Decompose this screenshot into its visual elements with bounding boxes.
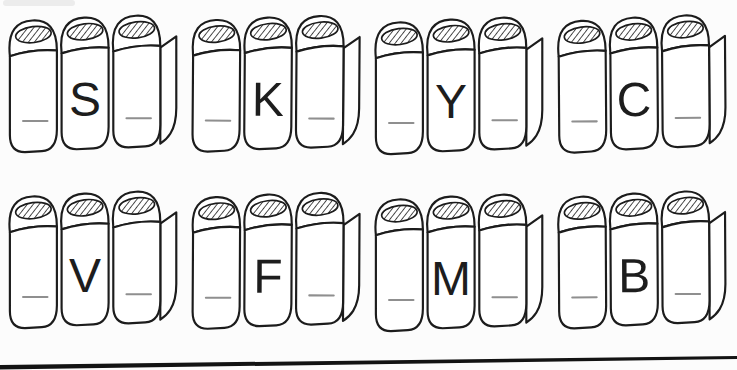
book-group-c: C	[557, 12, 730, 176]
book-group-v: V	[8, 188, 181, 352]
book-group-s: S	[8, 12, 181, 176]
book-groups-grid: S K Y C V	[8, 12, 730, 352]
book-letter: M	[431, 255, 471, 303]
book-letter: C	[617, 76, 652, 124]
bottom-rule	[0, 354, 737, 370]
books-illustration: Y	[374, 14, 547, 160]
book-letter: F	[253, 253, 283, 301]
book-group-f: F	[191, 188, 364, 352]
books-illustration: B	[557, 188, 731, 335]
book-group-y: Y	[374, 12, 547, 176]
book-letter: S	[69, 76, 101, 124]
books-illustration: F	[191, 189, 365, 336]
book-letter: Y	[435, 78, 467, 126]
book-letter: B	[618, 252, 650, 300]
books-illustration: M	[374, 191, 547, 337]
book-letter: K	[252, 76, 284, 124]
worksheet-page: S K Y C V	[0, 0, 737, 370]
book-group-b: B	[557, 188, 730, 352]
scan-artifact	[3, 0, 75, 6]
books-illustration: C	[556, 11, 730, 158]
books-illustration: K	[190, 11, 364, 158]
books-illustration: V	[8, 188, 181, 334]
book-group-k: K	[191, 12, 364, 176]
books-illustration: S	[8, 12, 181, 158]
book-group-m: M	[374, 188, 547, 352]
book-letter: V	[69, 252, 101, 300]
